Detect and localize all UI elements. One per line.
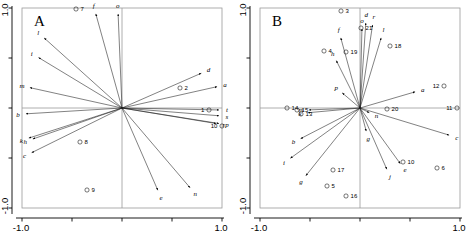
vector-arrow (39, 58, 122, 108)
observation-point (385, 107, 389, 111)
panel-b: -1.01.01.0-1.0Babcdefghijklmnoprg3456101… (237, 3, 466, 233)
vector-arrow (122, 87, 217, 108)
observation-point (74, 7, 78, 11)
y-axis-label-max: 1.0 (237, 3, 248, 16)
vector-arrow (360, 92, 415, 108)
vector-label: o (360, 17, 364, 25)
observation-label: 18 (395, 43, 402, 49)
vector-label: g (367, 135, 371, 143)
vector-arrow (30, 88, 122, 108)
vector-label: c (455, 134, 459, 142)
vector-label: i (283, 159, 285, 167)
observation-label: 11 (446, 105, 453, 111)
observation-label: 9 (92, 187, 96, 193)
observation-label: 7 (81, 6, 85, 12)
vector-label: o (116, 2, 120, 10)
observation-label: 5 (332, 183, 336, 189)
panel-letter: B (272, 13, 282, 29)
vector-label: b (292, 138, 296, 146)
observation-label: 12 (433, 83, 440, 89)
vector-arrow (360, 108, 449, 135)
observation-label: 17 (338, 167, 345, 173)
vector-arrow (360, 108, 387, 169)
observation-point (388, 44, 392, 48)
vector-label: c (23, 152, 27, 160)
vector-arrow (96, 14, 122, 108)
observation-point (344, 194, 348, 198)
vector-label: d (365, 11, 369, 19)
vector-label: i (31, 50, 33, 58)
observation-point (401, 160, 405, 164)
vector-arrow (44, 38, 122, 108)
observation-label: 20 (392, 106, 399, 112)
observation-label: 10 (408, 159, 415, 165)
observation-point (322, 49, 326, 53)
panel-a: -1.01.01.0-1.0Aabcdefhiklmnoprst1278910 (0, 2, 229, 233)
observation-label: 2 (185, 85, 189, 91)
x-axis-label-max: 1.0 (452, 222, 465, 233)
observation-point (359, 26, 363, 30)
vector-label: m (20, 82, 25, 90)
observation-label: 6 (442, 165, 446, 171)
vector-label: j (388, 173, 391, 181)
vector-label: e (159, 194, 162, 202)
vector-label: p (333, 84, 338, 92)
observation-point (331, 168, 335, 172)
x-axis-label-min: -1.0 (13, 222, 29, 233)
vector-label: l (37, 29, 39, 37)
panel-letter: A (34, 13, 45, 29)
x-axis-label-min: -1.0 (251, 222, 267, 233)
observation-point (178, 86, 182, 90)
vector-label: b (16, 111, 20, 119)
vector-arrow (342, 93, 360, 108)
y-axis-label-min: -1.0 (237, 198, 248, 214)
observation-point (85, 188, 89, 192)
observation-label: 8 (85, 139, 89, 145)
vector-arrow (336, 61, 360, 108)
y-axis-label-max: 1.0 (0, 3, 10, 16)
vector-label: h (24, 138, 28, 146)
observation-label: 19 (351, 49, 358, 55)
vector-label: l (382, 26, 384, 34)
vector-label: a (421, 86, 425, 94)
vector-label: g (299, 178, 303, 186)
observation-point (442, 84, 446, 88)
x-axis-label-max: 1.0 (214, 222, 227, 233)
y-axis-label-min: -1.0 (0, 198, 10, 214)
vector-label: a (223, 81, 227, 89)
vector-label: f (93, 2, 96, 10)
observation-label: 15 (302, 107, 309, 113)
vector-label: f (338, 26, 341, 34)
vector-label: r (372, 13, 375, 21)
vector-arrow (306, 108, 360, 176)
vector-arrow (122, 108, 158, 190)
observation-point (325, 184, 329, 188)
vector-arrow (29, 108, 122, 138)
biplot-figure: -1.01.01.0-1.0Aabcdefhiklmnoprst1278910-… (0, 0, 476, 247)
observation-label: 3 (346, 8, 350, 14)
vector-arrow (122, 73, 201, 108)
vector-arrow (122, 108, 190, 188)
vector-label: e (403, 166, 406, 174)
figure-canvas: -1.01.01.0-1.0Aabcdefhiklmnoprst1278910-… (0, 0, 476, 247)
observation-point (78, 140, 82, 144)
vector-arrow (32, 108, 122, 153)
observation-label: 16 (351, 193, 358, 199)
vector-arrow (118, 14, 122, 108)
observation-point (435, 166, 439, 170)
observation-label: 21 (366, 25, 373, 31)
vector-arrow (360, 38, 381, 108)
observation-point (339, 9, 343, 13)
vector-label: d (207, 66, 211, 74)
vector-label: t (226, 106, 229, 114)
vector-label: n (375, 112, 379, 120)
observation-label: 10 (211, 123, 218, 129)
vector-label: n (193, 190, 197, 198)
